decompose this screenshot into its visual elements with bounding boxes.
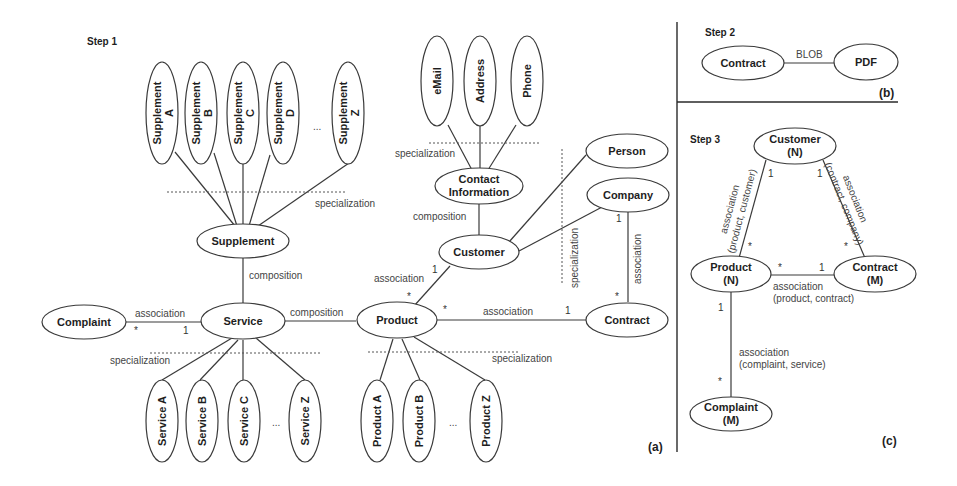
ellipsis-products: ... — [449, 417, 457, 428]
svg-text:Product Z: Product Z — [480, 395, 492, 447]
svg-text:Product: Product — [710, 261, 752, 273]
svg-text:(complaint, service): (complaint, service) — [739, 359, 826, 370]
entity-product-a[interactable]: Product A — [361, 380, 393, 462]
svg-text:Service A: Service A — [156, 396, 168, 446]
entity-customer[interactable]: Customer — [439, 235, 519, 269]
svg-text:eMail: eMail — [431, 67, 443, 95]
svg-text:1: 1 — [432, 264, 438, 275]
svg-text:(M): (M) — [723, 414, 740, 426]
entity-company[interactable]: Company — [587, 178, 669, 212]
entity-service-z[interactable]: Service Z — [289, 380, 321, 462]
svg-text:Service B: Service B — [196, 396, 208, 446]
relation-assoc-complaint-service: association — [135, 308, 185, 319]
svg-text:Customer: Customer — [769, 133, 821, 145]
svg-text:Service Z: Service Z — [299, 396, 311, 445]
relation-assoc-product-contract-c: association — [773, 281, 823, 292]
panel-a-label: (a) — [648, 440, 663, 454]
relation-blob: BLOB — [796, 49, 823, 60]
svg-text:1: 1 — [565, 305, 571, 316]
entity-complaint-c[interactable]: Complaint (M) — [690, 397, 772, 431]
svg-text:PDF: PDF — [855, 56, 877, 68]
step-1-label: Step 1 — [87, 36, 117, 47]
svg-text:D: D — [284, 109, 296, 117]
svg-text:Person: Person — [608, 145, 646, 157]
relation-assoc-company-contract: association — [632, 234, 643, 284]
svg-text:Product A: Product A — [371, 395, 383, 447]
svg-text:Z: Z — [349, 109, 361, 116]
entity-address[interactable]: Address — [464, 36, 496, 126]
step-2-label: Step 2 — [705, 27, 735, 38]
svg-text:Supplement: Supplement — [212, 235, 275, 247]
svg-text:*: * — [615, 291, 619, 302]
entity-person[interactable]: Person — [586, 134, 668, 168]
entity-supplement-b[interactable]: Supplement B — [185, 62, 217, 164]
entity-contact-information[interactable]: Contact Information — [435, 168, 523, 204]
relation-spec-customer: specialization — [569, 228, 580, 288]
svg-text:Supplement: Supplement — [232, 81, 244, 144]
svg-text:Supplement: Supplement — [151, 81, 163, 144]
entity-complaint[interactable]: Complaint — [42, 305, 126, 339]
svg-text:Product: Product — [376, 314, 418, 326]
entity-contract-c[interactable]: Contract (M) — [834, 256, 916, 292]
entity-contract[interactable]: Contract — [586, 303, 668, 337]
svg-text:(N): (N) — [787, 146, 803, 158]
svg-text:1: 1 — [768, 168, 774, 179]
relation-comp-contact-customer: composition — [413, 211, 466, 222]
entity-email[interactable]: eMail — [421, 36, 453, 126]
svg-text:*: * — [778, 262, 782, 273]
entity-service-c[interactable]: Service C — [228, 380, 260, 462]
svg-text:(M): (M) — [867, 274, 884, 286]
entity-customer-c[interactable]: Customer (N) — [754, 128, 836, 164]
svg-text:Customer: Customer — [453, 246, 505, 258]
entity-supplement[interactable]: Supplement — [197, 224, 289, 258]
svg-text:*: * — [443, 304, 447, 315]
entity-service-b[interactable]: Service B — [186, 380, 218, 462]
svg-text:Product B: Product B — [413, 395, 425, 448]
svg-text:*: * — [134, 325, 138, 336]
relation-assoc-product-customer: association — [374, 273, 424, 284]
entity-supplement-d[interactable]: Supplement D — [267, 62, 299, 164]
panel-c-label: (c) — [882, 434, 897, 448]
svg-text:1: 1 — [616, 213, 622, 224]
svg-text:Complaint: Complaint — [704, 401, 758, 413]
svg-text:*: * — [844, 241, 848, 252]
er-diagram-figure: Step 1 — [0, 0, 957, 486]
relation-spec-product: specialization — [492, 353, 552, 364]
entity-service-a[interactable]: Service A — [146, 380, 178, 462]
svg-text:1: 1 — [817, 168, 823, 179]
entity-product-z[interactable]: Product Z — [470, 380, 502, 462]
svg-text:*: * — [407, 291, 411, 302]
panel-a: Step 1 — [42, 36, 669, 462]
entity-contract-b[interactable]: Contract — [702, 46, 784, 80]
svg-text:Phone: Phone — [521, 64, 533, 98]
relation-spec-contact: specialization — [395, 148, 455, 159]
svg-text:*: * — [748, 241, 752, 252]
entity-product[interactable]: Product — [357, 302, 437, 338]
entity-supplement-c[interactable]: Supplement C — [227, 62, 259, 164]
svg-text:Supplement: Supplement — [272, 81, 284, 144]
entity-supplement-a[interactable]: Supplement A — [146, 62, 178, 164]
entity-product-b[interactable]: Product B — [403, 380, 435, 462]
svg-text:Contact: Contact — [459, 173, 500, 185]
svg-text:C: C — [244, 109, 256, 117]
panel-b: Step 2 Contract BLOB PDF (b) — [702, 27, 898, 100]
relation-spec-supplement: specialization — [315, 198, 375, 209]
entity-phone[interactable]: Phone — [511, 36, 543, 126]
svg-text:Supplement: Supplement — [337, 81, 349, 144]
svg-text:Service C: Service C — [238, 396, 250, 446]
svg-text:Address: Address — [474, 59, 486, 103]
svg-text:Supplement: Supplement — [190, 81, 202, 144]
relation-comp-supplement-service: composition — [249, 270, 302, 281]
entity-supplement-z[interactable]: Supplement Z — [332, 62, 364, 164]
svg-text:Contract: Contract — [852, 261, 898, 273]
entity-product-c[interactable]: Product (N) — [691, 256, 771, 292]
svg-text:Contract: Contract — [604, 314, 650, 326]
svg-text:Contract: Contract — [720, 57, 766, 69]
svg-text:1: 1 — [819, 262, 825, 273]
entity-service[interactable]: Service — [201, 303, 285, 339]
ellipsis-services: ... — [272, 417, 280, 428]
svg-text:Complaint: Complaint — [57, 316, 111, 328]
entity-pdf[interactable]: PDF — [834, 44, 898, 80]
relation-comp-service-product: composition — [290, 307, 343, 318]
svg-text:Service: Service — [223, 315, 262, 327]
